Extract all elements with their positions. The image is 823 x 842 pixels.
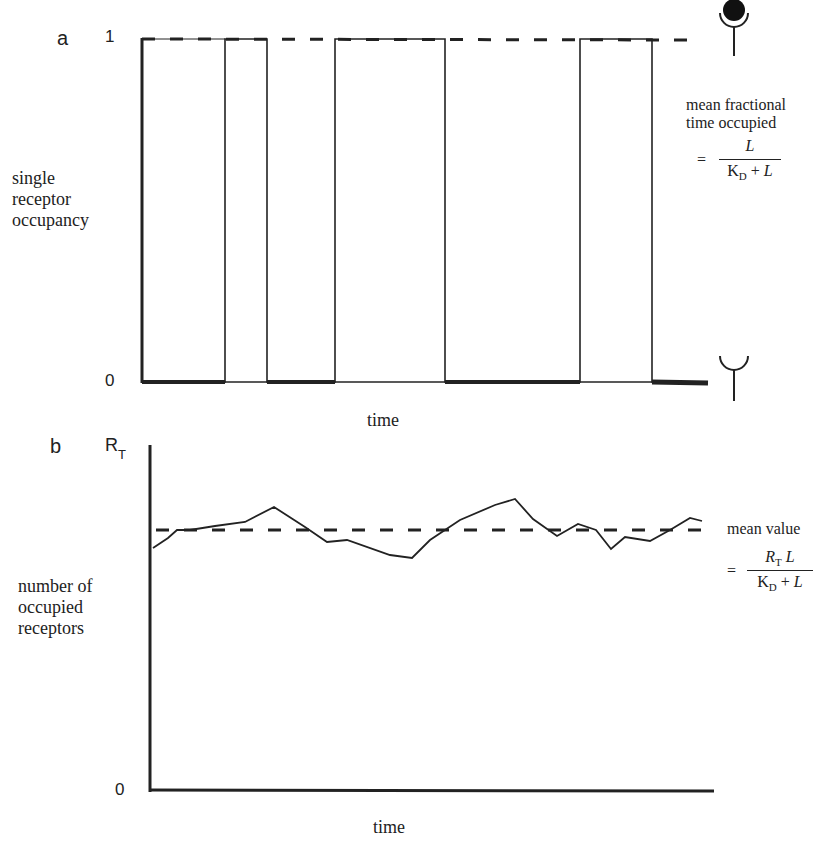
panel-a-annotation: mean fractional time occupied [686,96,786,132]
panel-b-x-axis-label: time [373,817,405,838]
panel-a-letter: a [57,27,68,50]
panel-b-annotation: mean value [727,518,800,539]
panel-b-x-axis [149,790,714,791]
receptor-occupancy-figure: a 1 0 single receptor occupancy time mea… [0,0,823,842]
panel-a-y-tick-1: 1 [105,27,114,47]
panel-b-occupied-receptors-trace [153,499,702,558]
panel-b-letter: b [50,435,61,458]
panel-b-y-axis-label: number of occupied receptors [18,576,92,639]
empty-receptor-icon [720,356,748,401]
panel-b-y-tick-rt: RT [105,435,126,459]
panel-a-y-axis-label: single receptor occupancy [12,168,89,231]
panel-a-formula: = L KD + L [697,137,807,183]
panel-a-x-axis-label: time [367,410,399,431]
panel-a-y-tick-0: 0 [105,371,114,391]
panel-b-y-tick-0: 0 [115,780,124,800]
panel-b-plot [149,445,714,792]
panel-b-formula: = RT L KD + L [727,548,823,594]
bound-receptor-icon [720,0,748,56]
panel-a-plot [142,38,708,383]
panel-a-occupancy-trace [142,39,706,383]
